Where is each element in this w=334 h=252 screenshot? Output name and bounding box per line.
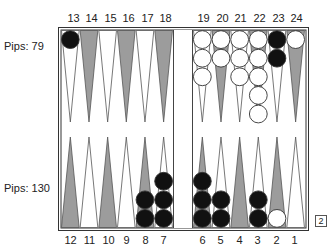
black-checker-icon[interactable] xyxy=(155,210,173,228)
white-checker-icon[interactable] xyxy=(231,31,249,49)
black-checker-icon[interactable] xyxy=(136,210,154,228)
white-checker-icon[interactable] xyxy=(193,49,211,67)
white-checker-icon[interactable] xyxy=(193,31,211,49)
white-checker-icon[interactable] xyxy=(231,68,249,86)
white-checker-icon[interactable] xyxy=(249,31,267,49)
white-checker-icon[interactable] xyxy=(287,31,305,49)
black-checker-icon[interactable] xyxy=(212,210,230,228)
backgammon-board xyxy=(0,0,334,252)
white-checker-icon[interactable] xyxy=(249,87,267,105)
white-checker-icon[interactable] xyxy=(193,68,211,86)
black-checker-icon[interactable] xyxy=(155,191,173,209)
white-checker-icon[interactable] xyxy=(249,68,267,86)
black-checker-icon[interactable] xyxy=(268,49,286,67)
white-checker-icon[interactable] xyxy=(249,49,267,67)
black-checker-icon[interactable] xyxy=(193,172,211,190)
black-checker-icon[interactable] xyxy=(136,191,154,209)
black-checker-icon[interactable] xyxy=(212,191,230,209)
black-checker-icon[interactable] xyxy=(268,31,286,49)
black-checker-icon[interactable] xyxy=(155,172,173,190)
black-checker-icon[interactable] xyxy=(193,210,211,228)
white-checker-icon[interactable] xyxy=(249,105,267,123)
black-checker-icon[interactable] xyxy=(249,191,267,209)
black-checker-icon[interactable] xyxy=(249,210,267,228)
doubling-cube[interactable]: 2 xyxy=(315,215,327,227)
bar[interactable] xyxy=(174,30,192,228)
white-checker-icon[interactable] xyxy=(212,49,230,67)
white-checker-icon[interactable] xyxy=(212,31,230,49)
black-checker-icon[interactable] xyxy=(193,191,211,209)
white-checker-icon[interactable] xyxy=(231,49,249,67)
white-checker-icon[interactable] xyxy=(268,210,286,228)
black-checker-icon[interactable] xyxy=(61,31,79,49)
